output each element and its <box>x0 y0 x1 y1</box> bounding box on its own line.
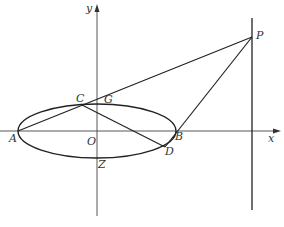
label-C: C <box>76 92 85 105</box>
label-O: O <box>87 135 96 148</box>
label-P: P <box>255 29 264 42</box>
diagram-canvas: y x O A B C G D P Z <box>0 0 284 227</box>
label-A: A <box>8 132 17 145</box>
label-Z: Z <box>97 158 106 171</box>
line-AP <box>18 37 252 131</box>
y-axis-arrow-icon <box>95 4 100 12</box>
label-D: D <box>164 145 174 158</box>
label-y: y <box>85 2 93 15</box>
geometry-figure: y x O A B C G D P Z <box>0 0 284 227</box>
label-B: B <box>174 130 183 143</box>
label-x: x <box>268 132 275 145</box>
label-G: G <box>104 93 113 106</box>
